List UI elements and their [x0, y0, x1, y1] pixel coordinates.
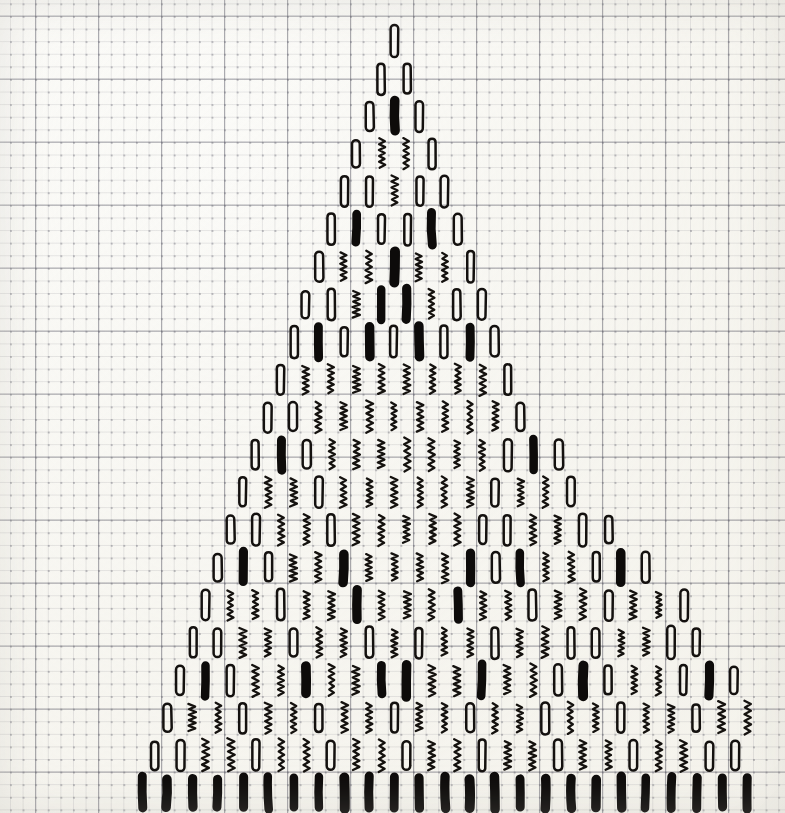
cell-mark-solid [217, 779, 218, 807]
cell-mark-open [289, 402, 297, 431]
cell-mark-open [467, 251, 474, 283]
cell-mark-solid [671, 777, 672, 809]
cell-mark-zig [239, 628, 246, 658]
cell-mark-zig [529, 741, 536, 770]
cell-mark-open [706, 742, 714, 771]
cell-mark-zig [744, 701, 751, 735]
cell-mark-zig [252, 590, 258, 619]
cell-mark-zig [265, 628, 271, 656]
cell-mark-open [341, 327, 348, 356]
cell-mark-open [440, 326, 447, 359]
cell-mark-zig [417, 478, 423, 508]
cell-mark-zig [668, 705, 675, 733]
cell-mark-open [315, 252, 323, 282]
cell-mark-zig [328, 591, 335, 620]
cell-mark-zig [417, 553, 424, 581]
cell-mark-zig [430, 365, 436, 394]
cell-mark-open [568, 627, 575, 658]
plot-canvas [0, 0, 785, 813]
cell-mark-open [214, 628, 222, 657]
cell-mark-zig [656, 741, 663, 772]
cell-mark-open [190, 627, 197, 657]
cell-mark-open [265, 552, 272, 581]
cell-mark-open [504, 439, 512, 471]
cell-mark-zig [467, 401, 473, 433]
cell-mark-zig [227, 590, 233, 620]
cell-mark-open [667, 626, 675, 659]
cell-mark-open [303, 440, 311, 469]
cell-mark-zig [428, 741, 435, 770]
cell-mark-zig [366, 400, 373, 432]
cell-mark-open [366, 176, 373, 206]
cell-mark-zig [518, 479, 524, 507]
cell-mark-solid [545, 778, 546, 808]
cell-mark-zig [316, 627, 322, 657]
cell-mark-zig [467, 477, 474, 507]
cell-mark-zig [505, 591, 511, 620]
cell-mark-zig [265, 477, 272, 508]
cell-mark-open [429, 139, 436, 169]
cell-mark-open [214, 554, 222, 582]
cell-mark-zig [680, 740, 687, 771]
cell-mark-zig [379, 740, 385, 772]
cell-mark-open [416, 176, 423, 205]
cell-mark-open [555, 440, 563, 470]
cell-mark-zig [593, 704, 599, 732]
cell-mark-zig [442, 628, 448, 656]
cell-mark-open [227, 515, 235, 543]
cell-mark-zig [378, 440, 385, 468]
cell-mark-open [277, 589, 284, 620]
cell-mark-open [605, 590, 613, 620]
cell-mark-zig [416, 254, 422, 282]
cell-mark-solid [709, 665, 710, 696]
cell-mark-zig [303, 591, 309, 619]
cell-mark-zig [656, 666, 662, 695]
cell-mark-zig [366, 478, 372, 506]
cell-mark-solid [369, 776, 370, 808]
cell-mark-open [390, 326, 397, 358]
cell-mark-zig [340, 252, 346, 280]
cell-mark-zig [404, 591, 411, 618]
cell-mark-solid [571, 778, 572, 808]
cell-mark-solid [645, 778, 646, 808]
cell-mark-zig [542, 626, 549, 658]
cell-mark-zig [304, 514, 311, 545]
cell-mark-zig [580, 588, 587, 619]
cell-mark-zig [453, 666, 460, 696]
cell-mark-open [415, 101, 423, 132]
cell-mark-zig [428, 438, 435, 471]
cell-mark-zig [366, 554, 373, 581]
cell-mark-solid [205, 666, 206, 697]
cell-mark-open [378, 214, 385, 244]
cell-mark-open [177, 740, 185, 771]
cell-mark-zig [516, 629, 523, 657]
cell-mark-open [341, 176, 348, 206]
cell-mark-solid [381, 665, 382, 694]
cell-mark-open [302, 291, 310, 318]
cell-mark-open [492, 552, 500, 583]
cell-mark-open [291, 326, 298, 358]
cell-mark-open [593, 552, 600, 582]
cell-mark-zig [504, 741, 511, 769]
cell-mark-zig [278, 666, 284, 696]
cell-mark-open [680, 590, 688, 622]
cell-mark-open [567, 477, 575, 507]
cell-mark-zig [568, 552, 575, 583]
cell-mark-zig [315, 552, 322, 582]
cell-mark-open [391, 25, 399, 57]
cell-mark-zig [530, 664, 537, 697]
cell-mark-zig [353, 291, 360, 318]
cell-mark-open [454, 214, 462, 245]
cell-mark-zig [353, 514, 360, 545]
cell-mark-zig [202, 739, 209, 771]
cell-mark-zig [291, 703, 297, 733]
cell-mark-open [528, 589, 536, 620]
cell-mark-zig [391, 402, 397, 430]
cell-mark-zig [428, 589, 434, 620]
cell-mark-zig [441, 476, 447, 507]
cell-mark-zig [340, 477, 347, 508]
cell-mark-zig [379, 138, 385, 167]
cell-mark-zig [631, 666, 637, 694]
cell-mark-zig [417, 402, 424, 432]
cell-mark-zig [353, 440, 360, 469]
